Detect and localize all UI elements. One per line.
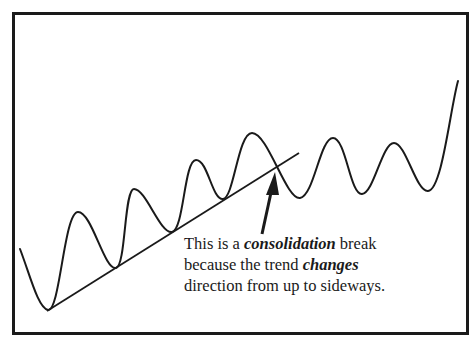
- annotation-caption: This is a consolidation break because th…: [184, 233, 464, 296]
- caption-text: break: [336, 234, 377, 253]
- caption-line-2: because the trend changes: [184, 254, 464, 275]
- break-arrow-head: [266, 172, 279, 195]
- caption-line-1: This is a consolidation break: [184, 233, 464, 254]
- caption-text: because the trend: [184, 255, 303, 274]
- caption-text: This is a: [184, 234, 244, 253]
- caption-emphasis-changes: changes: [303, 255, 359, 274]
- caption-emphasis-consolidation: consolidation: [244, 234, 336, 253]
- caption-line-3: direction from up to sideways.: [184, 275, 464, 296]
